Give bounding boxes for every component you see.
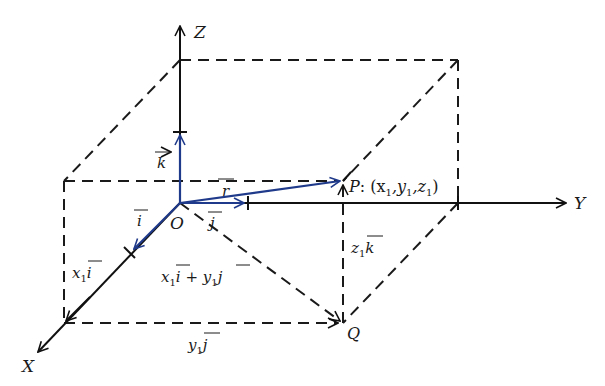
box-edge-top-right-diag	[343, 60, 458, 181]
point-q-label: Q	[347, 324, 360, 343]
point-p-label: P: (x1,y1,z1)	[348, 177, 439, 198]
label-sum: x1i + y1j	[161, 265, 250, 288]
z1k-text: z1k	[350, 239, 374, 259]
x1i-text: x1i	[72, 264, 92, 284]
origin-label: O	[170, 213, 184, 233]
vector-diagram: Z Y X O k r i j P: (x1,y1,z1) Q x1i x1i …	[0, 0, 605, 386]
label-k: k	[155, 152, 171, 172]
y1j-text: y1j	[187, 336, 208, 356]
z-axis-label: Z	[193, 22, 207, 42]
sum-text: x1i + y1j	[161, 268, 223, 288]
i-text: i	[137, 212, 142, 230]
label-i: i	[134, 210, 148, 230]
x-axis-mid-arrow	[66, 297, 90, 321]
label-j: j	[207, 212, 222, 232]
j-text: j	[207, 214, 215, 232]
label-x1i: x1i	[72, 261, 102, 284]
box-edge-bottom-right-diag	[343, 203, 458, 323]
y-axis-label: Y	[574, 193, 587, 213]
x-axis-label: X	[20, 356, 35, 376]
k-text: k	[157, 154, 166, 172]
axes	[38, 26, 566, 352]
label-y1j: y1j	[187, 333, 220, 356]
projection-OQ	[180, 203, 340, 321]
label-z1k: z1k	[350, 236, 383, 259]
vector-r	[180, 181, 340, 203]
r-text: r	[222, 182, 230, 200]
